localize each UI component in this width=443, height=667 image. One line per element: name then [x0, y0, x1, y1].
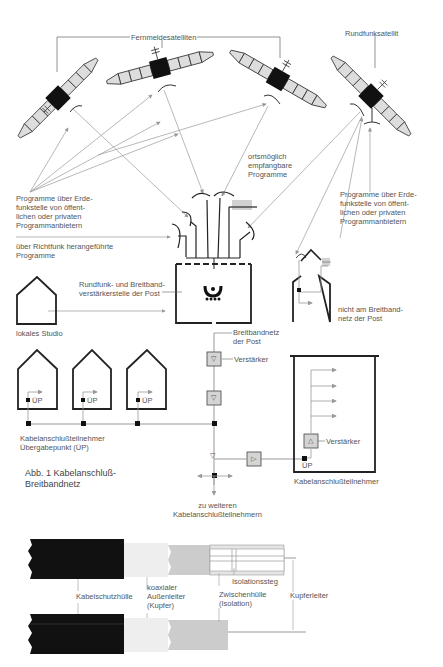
label-up-2: ÜP [87, 396, 97, 405]
label-fernmeldesatelliten: Fernmeldesatelliten [131, 33, 196, 42]
label-richtfunk: über Richtfunk herangeführte Programme [16, 242, 113, 260]
label-ortsmoeglich: ortsmöglich empfangbare Programme [248, 152, 292, 179]
label-rundfunksatellit: Rundfunksatellit [345, 29, 398, 38]
label-uebergabepunkt: Kabelanschlußteilnehmer Übergabepunkt (Ü… [20, 434, 105, 452]
amp-symbol-down-2: ▽ [211, 393, 216, 402]
station-antennas [172, 192, 257, 258]
label-verstaerkerstelle: Rundfunk- und Breitband- verstärkerstell… [79, 280, 165, 298]
dish-sat-4a [350, 104, 364, 116]
label-zwischenhuelle: Zwischenhülle (Isolation) [219, 590, 267, 608]
label-verstaerker-2: Verstärker [326, 437, 360, 446]
rod-antenna [233, 200, 251, 210]
distribution-arrows [198, 476, 232, 495]
broadband-cable-network-diagram: Fernmeldesatelliten Rundfunksatellit ort… [0, 0, 443, 667]
label-programme-links: Programme über Erde- funkstelle von öffe… [16, 194, 93, 230]
amp-symbol-1: ▽ [210, 451, 215, 460]
label-programme-rechts: Programme über Erde- funkstelle von öffe… [340, 190, 417, 226]
satellite-3 [226, 32, 337, 114]
dish-sat-1 [70, 106, 82, 112]
label-isolationssteg: Isolationssteg [232, 577, 278, 586]
label-aussenleiter: koaxialer Außenleiter (Kupfer) [147, 583, 185, 610]
label-kabelschutzhuelle: Kabelschutzhülle [76, 592, 133, 601]
satellite-1 [13, 53, 104, 144]
label-breitbandnetz: Breitbandnetz der Post [233, 328, 279, 346]
dish-sat-2 [158, 85, 176, 92]
label-verstaerker-1: Verstärker [234, 355, 268, 364]
label-teilnehmer: Kabelanschlußteilnehmer [294, 477, 379, 486]
post-horn-logo [205, 286, 221, 301]
label-up-3: ÜP [142, 396, 152, 405]
house-lokales-studio [17, 277, 56, 324]
label-up-1: ÜP [32, 396, 42, 405]
amp-symbol-down-1: ▽ [211, 354, 216, 363]
amp-symbol-up: △ [308, 436, 313, 445]
label-kupferleiter: Kupferleiter [290, 591, 328, 600]
label-lokales-studio: lokales Studio [16, 329, 63, 338]
satellite-rundfunk [326, 42, 426, 142]
label-up-4: ÜP [302, 461, 312, 470]
amp-symbol-right: ▷ [251, 454, 256, 463]
label-zu-weiteren: zu weiteren Kabelanschlußteilnehmern [173, 501, 262, 519]
apartment-building [290, 356, 379, 472]
label-nicht-am-netz: nicht am Breitband- netz der Post [338, 305, 403, 323]
house-not-connected [293, 250, 331, 322]
dish-sat-3 [264, 95, 280, 104]
figure-caption: Abb. 1 Kabelanschluß- Breitbandnetz [25, 468, 116, 490]
fernmeldesatelliten-bracket [57, 35, 375, 72]
